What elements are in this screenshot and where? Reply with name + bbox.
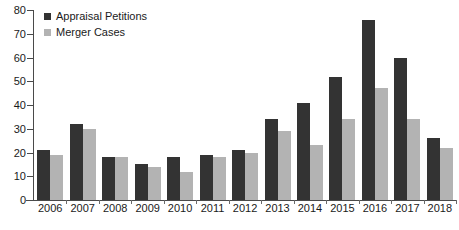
- bar-column[interactable]: 14: [148, 0, 161, 200]
- y-axis-tick: [27, 153, 33, 154]
- bar[interactable]: 21: [37, 150, 50, 200]
- x-axis-tick: [456, 200, 457, 204]
- bar-column[interactable]: 34: [407, 0, 420, 200]
- x-axis-label: 2013: [261, 203, 293, 214]
- x-axis-label: 2016: [359, 203, 391, 214]
- bar-group: 2119: [34, 0, 66, 200]
- bar[interactable]: 41: [297, 103, 310, 200]
- bar-column[interactable]: 34: [265, 0, 278, 200]
- bar-column[interactable]: 21: [232, 0, 245, 200]
- bar[interactable]: 76: [362, 20, 375, 201]
- bar-column[interactable]: 19: [50, 0, 63, 200]
- y-axis-tick-label: 50: [2, 76, 26, 87]
- bar[interactable]: 18: [102, 157, 115, 200]
- y-axis-tick: [27, 58, 33, 59]
- bar-group: 3429: [261, 0, 293, 200]
- x-axis-tick: [164, 200, 165, 204]
- bar-column[interactable]: 18: [213, 0, 226, 200]
- bar-column[interactable]: 19: [200, 0, 213, 200]
- x-axis-tick: [424, 200, 425, 204]
- bar-column[interactable]: 29: [278, 0, 291, 200]
- x-axis-tick: [359, 200, 360, 204]
- x-axis-label: 2009: [131, 203, 163, 214]
- bar-column[interactable]: 12: [180, 0, 193, 200]
- bar-column[interactable]: 18: [102, 0, 115, 200]
- y-axis-tick-label: 40: [2, 100, 26, 111]
- bar[interactable]: 21: [232, 150, 245, 200]
- bar[interactable]: 47: [375, 88, 388, 200]
- bar-column[interactable]: 52: [329, 0, 342, 200]
- x-axis-labels: 2006200720082009201020112012201320142015…: [34, 203, 456, 214]
- bar-column[interactable]: 23: [310, 0, 323, 200]
- bar[interactable]: 14: [148, 167, 161, 200]
- bar[interactable]: 60: [394, 58, 407, 201]
- bar[interactable]: 18: [115, 157, 128, 200]
- bar-column[interactable]: 21: [37, 0, 50, 200]
- y-axis-tick: [27, 10, 33, 11]
- x-axis-tick: [229, 200, 230, 204]
- x-axis-label: 2012: [229, 203, 261, 214]
- y-axis-tick-label: 60: [2, 53, 26, 64]
- bar[interactable]: 32: [70, 124, 83, 200]
- x-axis-tick: [99, 200, 100, 204]
- y-axis-tick: [27, 200, 33, 201]
- bar-group: 1918: [196, 0, 228, 200]
- x-axis-label: 2018: [424, 203, 456, 214]
- bar[interactable]: 34: [265, 119, 278, 200]
- bar[interactable]: 18: [213, 157, 226, 200]
- bar-group: 1812: [164, 0, 196, 200]
- y-axis-tick-label: 0: [2, 195, 26, 206]
- x-axis-tick: [294, 200, 295, 204]
- y-axis-tick: [27, 81, 33, 82]
- bar[interactable]: 23: [310, 145, 323, 200]
- x-axis-tick: [196, 200, 197, 204]
- bar-column[interactable]: 30: [83, 0, 96, 200]
- bar-group: 1514: [131, 0, 163, 200]
- bar[interactable]: 34: [407, 119, 420, 200]
- x-axis-tick: [261, 200, 262, 204]
- bar-column[interactable]: 18: [167, 0, 180, 200]
- bar-column[interactable]: 76: [362, 0, 375, 200]
- bar-column[interactable]: 32: [70, 0, 83, 200]
- bar-group: 5234: [326, 0, 358, 200]
- y-axis-tick-label: 10: [2, 171, 26, 182]
- bar-groups: 2119323018181514181219182120342941235234…: [34, 0, 456, 200]
- x-axis-label: 2011: [196, 203, 228, 214]
- x-axis-label: 2014: [294, 203, 326, 214]
- bar-column[interactable]: 18: [115, 0, 128, 200]
- y-axis-tick: [27, 176, 33, 177]
- y-axis-tick: [27, 34, 33, 35]
- bar[interactable]: 34: [342, 119, 355, 200]
- y-axis-tick: [27, 129, 33, 130]
- bar-group: 7647: [359, 0, 391, 200]
- bar-column[interactable]: 22: [440, 0, 453, 200]
- y-axis-tick: [27, 105, 33, 106]
- bar[interactable]: 20: [245, 153, 258, 201]
- bar-column[interactable]: 47: [375, 0, 388, 200]
- bar[interactable]: 29: [278, 131, 291, 200]
- bar-column[interactable]: 34: [342, 0, 355, 200]
- bar-column[interactable]: 15: [135, 0, 148, 200]
- bar-column[interactable]: 60: [394, 0, 407, 200]
- bar[interactable]: 52: [329, 77, 342, 201]
- bar-column[interactable]: 20: [245, 0, 258, 200]
- bar[interactable]: 12: [180, 172, 193, 201]
- x-axis-label: 2010: [164, 203, 196, 214]
- x-axis-tick: [131, 200, 132, 204]
- y-axis-tick-label: 80: [2, 5, 26, 16]
- bar-group: 2120: [229, 0, 261, 200]
- bar[interactable]: 18: [167, 157, 180, 200]
- bar-column[interactable]: 41: [297, 0, 310, 200]
- bar[interactable]: 15: [135, 164, 148, 200]
- bar-group: 1818: [99, 0, 131, 200]
- x-axis-tick: [66, 200, 67, 204]
- bar[interactable]: 26: [427, 138, 440, 200]
- bar[interactable]: 19: [50, 155, 63, 200]
- bar[interactable]: 22: [440, 148, 453, 200]
- x-axis-label: 2007: [66, 203, 98, 214]
- bar-column[interactable]: 26: [427, 0, 440, 200]
- x-axis-label: 2015: [326, 203, 358, 214]
- bar[interactable]: 19: [200, 155, 213, 200]
- bar[interactable]: 30: [83, 129, 96, 200]
- bar-chart: 01020304050607080 Appraisal PetitionsMer…: [0, 0, 459, 230]
